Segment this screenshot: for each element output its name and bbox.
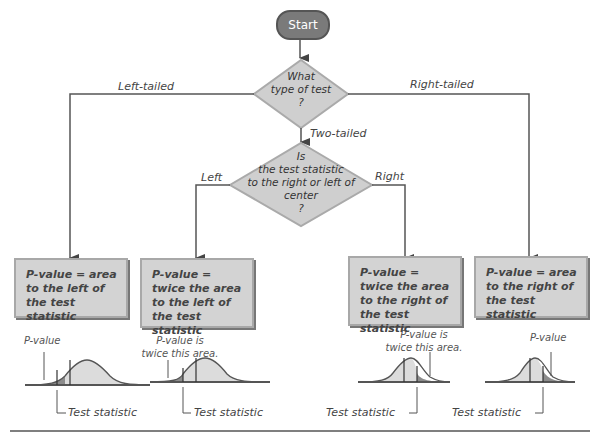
curve-caption-two-tailed-left: P-value is twice this area. — [140, 334, 220, 360]
curve-caption-two-tailed-right: P-value is twice this area. — [384, 328, 464, 354]
curve-caption-right-tailed: P-value — [530, 331, 566, 344]
result-box-two-tailed-left: P-value = twice the area to the left of … — [140, 258, 254, 328]
decision2-line: center — [230, 189, 372, 202]
normal-curve-two-tailed-right — [358, 352, 450, 413]
decision2-line: ? — [230, 202, 372, 215]
test-statistic-label: Test statistic — [194, 406, 263, 419]
caption-line: P-value is — [140, 334, 220, 347]
result-box-left-tailed: P-value = area to the left of the test s… — [14, 258, 128, 318]
test-statistic-label: Test statistic — [326, 406, 395, 419]
caption-line: P-value is — [384, 328, 464, 341]
decision2-line: to the right or left of — [230, 176, 372, 189]
branch-label-right-tailed: Right-tailed — [410, 78, 474, 91]
caption-line: twice this area. — [384, 341, 464, 354]
normal-curve-two-tailed-left — [150, 358, 270, 413]
decision1-line: type of test — [254, 83, 348, 96]
decision1-line: ? — [254, 96, 348, 109]
branch-label-right: Right — [375, 170, 404, 183]
decision2-line: the test statistic — [230, 163, 372, 176]
normal-curve-right-tailed — [485, 352, 575, 413]
caption-line: twice this area. — [140, 347, 220, 360]
result-box-right-tailed: P-value = area to the right of the test … — [474, 256, 588, 318]
decision2-line: Is — [230, 150, 372, 163]
branch-label-left-tailed: Left-tailed — [118, 80, 174, 93]
result-box-two-tailed-right: P-value = twice the area to the right of… — [348, 256, 462, 326]
decision1-line: What — [254, 70, 348, 83]
normal-curve-left-tailed — [25, 352, 150, 413]
branch-label-left: Left — [201, 171, 222, 184]
flowchart-connectors — [0, 0, 598, 439]
test-statistic-label: Test statistic — [68, 406, 137, 419]
start-node: Start — [276, 10, 330, 40]
curve-caption-left-tailed: P-value — [24, 334, 60, 347]
decision-question-position: Is the test statistic to the right or le… — [230, 150, 372, 215]
branch-label-two-tailed: Two-tailed — [310, 127, 366, 140]
test-statistic-label: Test statistic — [452, 406, 521, 419]
decision-question-test-type: What type of test ? — [254, 70, 348, 109]
